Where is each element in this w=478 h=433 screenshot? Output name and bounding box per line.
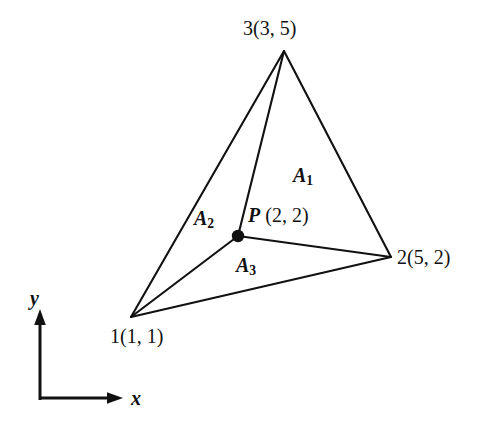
- area-a3-symbol: A: [236, 254, 249, 276]
- interior-point-label: P (2, 2): [248, 205, 309, 225]
- area-a2-symbol: A: [194, 207, 207, 229]
- outer-triangle: [131, 51, 391, 317]
- area-a2-subscript: 2: [207, 216, 214, 231]
- x-axis-arrowhead-icon: [107, 392, 123, 404]
- area-a3-label: A3: [236, 255, 256, 278]
- area-a2-label: A2: [194, 208, 214, 231]
- vertex-3-label: 3(3, 5): [243, 18, 296, 38]
- vertex-1-label: 1(1, 1): [110, 326, 163, 346]
- vertex-2-label: 2(5, 2): [397, 247, 450, 267]
- area-a1-label: A1: [293, 165, 313, 188]
- area-a1-subscript: 1: [306, 173, 313, 188]
- x-axis-label: x: [131, 388, 141, 408]
- y-axis-arrowhead-icon: [34, 309, 46, 325]
- interior-point-coords: (2, 2): [265, 204, 308, 226]
- interior-point-symbol: P: [248, 204, 260, 226]
- triangle-diagram: [0, 0, 478, 433]
- area-a3-subscript: 3: [249, 263, 256, 278]
- area-a1-symbol: A: [293, 164, 306, 186]
- y-axis-label: y: [30, 288, 39, 308]
- interior-point-marker: [232, 230, 244, 242]
